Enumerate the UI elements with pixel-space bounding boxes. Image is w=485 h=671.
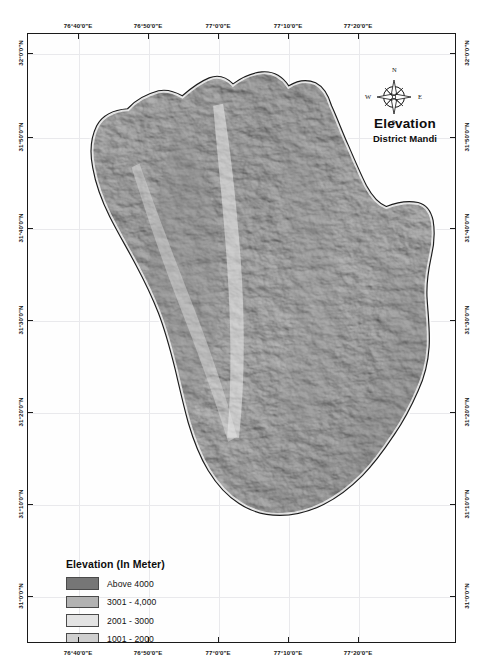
compass-label-west: W bbox=[365, 93, 371, 100]
legend-title: Elevation (In Meter) bbox=[66, 558, 165, 570]
map-frame: N S W E Elevation District Mandi Elevati… bbox=[27, 33, 456, 643]
latitude-label: 31°20'0"N bbox=[17, 397, 24, 426]
longitude-tick bbox=[78, 33, 79, 39]
longitude-tick bbox=[288, 637, 289, 643]
compass-label-east: E bbox=[418, 93, 422, 100]
longitude-tick bbox=[218, 637, 219, 643]
latitude-tick bbox=[27, 504, 33, 505]
latitude-tick bbox=[27, 53, 33, 54]
latitude-label: 31°50'0"N bbox=[17, 122, 24, 151]
compass-label-north: N bbox=[392, 66, 397, 73]
legend-swatch bbox=[66, 577, 99, 590]
latitude-tick bbox=[27, 228, 33, 229]
legend-label: 3001 - 4,000 bbox=[107, 597, 156, 607]
longitude-label: 77°0'0"E bbox=[205, 649, 230, 656]
latitude-label: 32°0'0"N bbox=[17, 40, 24, 66]
longitude-tick bbox=[358, 33, 359, 39]
longitude-tick bbox=[78, 637, 79, 643]
latitude-tick bbox=[450, 320, 456, 321]
legend-item: 3001 - 4,000 bbox=[66, 595, 165, 610]
scale-tick-label: 6 bbox=[353, 641, 357, 643]
latitude-label: 32°0'0"N bbox=[463, 40, 470, 66]
latitude-label: 31°40'0"N bbox=[17, 213, 24, 242]
longitude-tick bbox=[218, 33, 219, 39]
latitude-label: 31°0'0"N bbox=[463, 583, 470, 609]
legend-item: 1001 - 2000 bbox=[66, 632, 165, 644]
scale-tick-label: 3 bbox=[335, 641, 339, 643]
latitude-tick bbox=[27, 320, 33, 321]
page-subtitle: District Mandi bbox=[350, 133, 456, 144]
longitude-tick bbox=[148, 637, 149, 643]
latitude-tick bbox=[27, 137, 33, 138]
longitude-label: 77°10'0"E bbox=[274, 649, 303, 656]
latitude-label: 31°10'0"N bbox=[17, 489, 24, 518]
legend-item: 2001 - 3000 bbox=[66, 613, 165, 628]
latitude-tick bbox=[450, 228, 456, 229]
legend-item: Above 4000 bbox=[66, 576, 165, 591]
longitude-tick bbox=[288, 33, 289, 39]
scale-bar: 0 3 6 12 18 24 Kilometers bbox=[318, 641, 456, 643]
legend-swatch bbox=[66, 633, 99, 643]
scale-tick-label: 18 bbox=[425, 641, 433, 643]
legend-label: 1001 - 2000 bbox=[107, 634, 154, 643]
latitude-label: 31°30'0"N bbox=[17, 305, 24, 334]
longitude-label: 76°50'0"E bbox=[134, 22, 163, 29]
longitude-label: 76°40'0"E bbox=[64, 22, 93, 29]
latitude-tick bbox=[27, 596, 33, 597]
longitude-label: 77°20'0"E bbox=[344, 649, 373, 656]
legend-swatch bbox=[66, 614, 99, 627]
latitude-label: 31°40'0"N bbox=[463, 213, 470, 242]
longitude-label: 76°50'0"E bbox=[134, 649, 163, 656]
latitude-tick bbox=[450, 137, 456, 138]
latitude-label: 31°30'0"N bbox=[463, 305, 470, 334]
longitude-label: 77°20'0"E bbox=[344, 22, 373, 29]
scale-tick-label: 0 bbox=[316, 641, 320, 643]
longitude-tick bbox=[148, 33, 149, 39]
longitude-label: 77°10'0"E bbox=[274, 22, 303, 29]
latitude-tick bbox=[450, 412, 456, 413]
latitude-label: 31°10'0"N bbox=[463, 489, 470, 518]
compass-rose-icon bbox=[372, 75, 416, 119]
page-title: Elevation bbox=[350, 116, 456, 131]
latitude-tick bbox=[27, 412, 33, 413]
longitude-tick bbox=[358, 637, 359, 643]
map-page: N S W E Elevation District Mandi Elevati… bbox=[0, 0, 485, 671]
scale-tick-label: 12 bbox=[388, 641, 396, 643]
legend: Elevation (In Meter) Above 4000 3001 - 4… bbox=[66, 558, 165, 643]
legend-label: Above 4000 bbox=[107, 579, 154, 589]
latitude-label: 31°20'0"N bbox=[463, 397, 470, 426]
longitude-label: 76°40'0"E bbox=[64, 649, 93, 656]
latitude-label: 31°50'0"N bbox=[463, 122, 470, 151]
latitude-label: 31°0'0"N bbox=[17, 583, 24, 609]
longitude-label: 77°0'0"E bbox=[205, 22, 230, 29]
latitude-tick bbox=[450, 504, 456, 505]
legend-label: 2001 - 3000 bbox=[107, 616, 154, 626]
scale-bar-ticks: 0 3 6 12 18 24 bbox=[318, 641, 456, 643]
latitude-tick bbox=[450, 53, 456, 54]
latitude-tick bbox=[450, 596, 456, 597]
legend-swatch bbox=[66, 596, 99, 609]
